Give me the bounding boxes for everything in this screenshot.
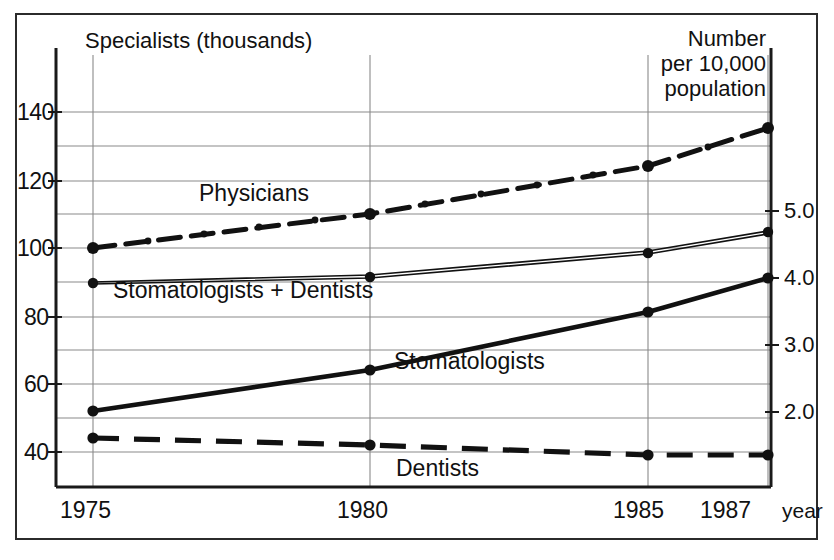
right-axis-title-line-3: population <box>636 76 766 101</box>
series-label-stomatologists: Stomatologists <box>394 348 545 375</box>
right-axis-title-line-1: Number <box>636 26 766 51</box>
gridlines-vertical <box>93 55 768 487</box>
x-axis-tick-1980: 1980 <box>337 497 388 524</box>
y-axis-tick-140: 140 <box>17 99 54 126</box>
right-y-axis-tick-3: 3.0 <box>784 332 815 358</box>
chart-figure: Specialists (thousands) Number per 10,00… <box>0 0 834 560</box>
plot-title: Specialists (thousands) <box>85 28 312 54</box>
series-label-physicians: Physicians <box>199 180 309 207</box>
x-axis-tick-1975: 1975 <box>60 497 111 524</box>
right-y-axis-tick-4: 4.0 <box>784 265 815 291</box>
right-y-axis-tick-5: 5.0 <box>784 198 815 224</box>
y-axis-tick-120: 120 <box>17 168 54 195</box>
series-label-dentists: Dentists <box>396 455 479 482</box>
right-axis-title-line-2: per 10,000 <box>636 51 766 76</box>
y-axis-tick-100: 100 <box>17 235 54 262</box>
right-axis-title: Number per 10,000 population <box>636 26 766 101</box>
y-axis-tick-40: 40 <box>24 439 49 466</box>
y-axis-tick-80: 80 <box>24 304 49 331</box>
x-axis-tick-1985: 1985 <box>613 497 664 524</box>
series-label-stomatologists-plus-dentists: Stomatologists + Dentists <box>113 277 373 304</box>
x-axis-tick-1987: 1987 <box>700 497 751 524</box>
y-axis-tick-60: 60 <box>24 371 49 398</box>
x-axis-title: year <box>782 499 823 523</box>
right-y-axis-tick-2: 2.0 <box>784 399 815 425</box>
